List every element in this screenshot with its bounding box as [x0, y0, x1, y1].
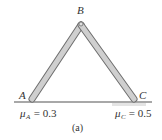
label-c: C [139, 89, 147, 101]
friction-c: μ C = 0.5 [114, 107, 152, 121]
label-b: B [77, 4, 84, 16]
label-a: A [18, 89, 26, 101]
svg-text:= 0.3: = 0.3 [31, 107, 57, 119]
svg-text:= 0.5: = 0.5 [126, 107, 152, 119]
caption: (a) [72, 122, 83, 134]
member-bc [81, 25, 134, 99]
friction-a: μ A = 0.3 [19, 107, 57, 121]
member-ab [32, 25, 81, 99]
svg-text:μ: μ [114, 107, 121, 119]
ground [14, 101, 152, 106]
truss-diagram: B A C μ A = 0.3 μ C = 0.5 (a) [0, 0, 162, 140]
pin-b-icon [79, 22, 83, 26]
svg-text:μ: μ [19, 107, 26, 119]
